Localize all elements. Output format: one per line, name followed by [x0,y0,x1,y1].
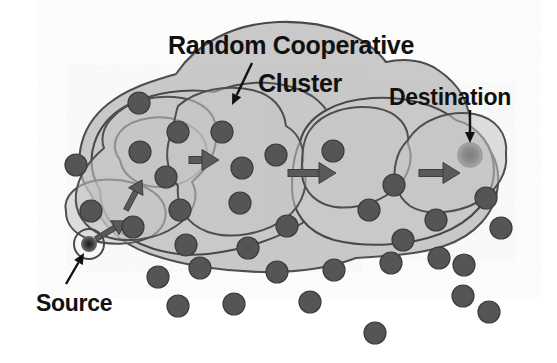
node-center-2 [229,192,251,214]
node-right-mid-2 [383,174,405,196]
node-outside-4 [453,254,475,276]
node-left-low-4 [175,234,197,256]
node-outside-9 [478,301,500,323]
node-center-4 [266,261,288,283]
destination-node [458,143,482,167]
node-left-upper-2 [167,121,189,143]
node-outside-8 [452,285,474,307]
node-left-low-1 [80,200,102,222]
node-left-mid-3 [155,166,177,188]
node-left-low-2 [122,216,144,238]
node-outside-7 [299,291,321,313]
node-outside-10 [364,322,386,344]
random-cooperative-label: Random Cooperative [168,31,414,59]
node-outside-3 [380,252,402,274]
node-center-6 [276,215,298,237]
node-right-edge-1 [490,217,512,239]
random-cooperative-cluster-diagram: Random Cooperative Cluster Destination S… [0,0,557,363]
node-center-3 [237,237,259,259]
node-outside-6 [223,293,245,315]
node-right-dest-2 [475,187,497,209]
figure-container: Random Cooperative Cluster Destination S… [0,0,557,363]
node-left-low-3 [169,199,191,221]
node-right-dest-1 [425,209,447,231]
destination-label: Destination [389,84,511,110]
node-center-1 [231,157,253,179]
node-left-upper-1 [128,92,150,114]
node-right-mid-1 [322,140,344,162]
source-node [81,236,97,252]
node-right-mid-4 [392,229,414,251]
node-right-mid-3 [358,199,380,221]
node-center-5 [265,144,287,166]
source-label: Source [36,290,112,316]
node-left-mid-2 [129,141,151,163]
node-left-mid-1 [65,154,87,176]
node-left-upper-3 [211,121,233,143]
node-outside-1 [189,257,211,279]
node-right-dest-3 [428,247,450,269]
node-left-bottom-1 [147,266,169,288]
node-outside-5 [167,295,189,317]
cluster-label: Cluster [258,69,343,97]
node-outside-2 [323,259,345,281]
